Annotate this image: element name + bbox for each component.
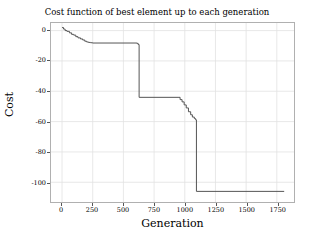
- y-axis-tick-labels: 0-20-40-60-80-100: [14, 0, 46, 241]
- y-tick-mark: [47, 183, 50, 184]
- x-tick-mark: [123, 203, 124, 206]
- chart-title: Cost function of best element up to each…: [0, 7, 314, 17]
- y-tick-label: -100: [31, 179, 46, 187]
- y-tick-mark: [47, 152, 50, 153]
- x-tick-label: 1250: [208, 206, 225, 214]
- x-tick-label: 1000: [177, 206, 194, 214]
- x-axis-label: Generation: [50, 217, 295, 230]
- x-tick-mark: [247, 203, 248, 206]
- x-tick-mark: [185, 203, 186, 206]
- y-tick-label: -60: [36, 118, 46, 126]
- y-tick-mark: [47, 91, 50, 92]
- x-tick-mark: [154, 203, 155, 206]
- y-tick-label: 0: [42, 26, 46, 34]
- x-tick-mark: [61, 203, 62, 206]
- y-tick-label: -80: [36, 148, 46, 156]
- x-tick-label: 500: [117, 206, 129, 214]
- x-tick-mark: [278, 203, 279, 206]
- cost-line-series: [51, 23, 294, 202]
- y-tick-label: -40: [36, 87, 46, 95]
- y-tick-label: -20: [36, 56, 46, 64]
- x-tick-label: 1500: [238, 206, 255, 214]
- x-tick-label: 750: [148, 206, 160, 214]
- x-tick-label: 1750: [269, 206, 286, 214]
- y-tick-mark: [47, 30, 50, 31]
- chart-figure: Cost function of best element up to each…: [0, 0, 314, 241]
- x-tick-mark: [216, 203, 217, 206]
- y-tick-mark: [47, 60, 50, 61]
- y-tick-mark: [47, 122, 50, 123]
- x-tick-mark: [92, 203, 93, 206]
- x-tick-label: 250: [86, 206, 98, 214]
- series-path: [62, 28, 284, 192]
- x-tick-label: 0: [59, 206, 63, 214]
- plot-area: [50, 22, 295, 203]
